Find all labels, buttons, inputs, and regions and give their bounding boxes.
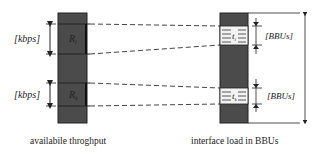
left-throughput-bar: Ri Rk	[58, 13, 90, 123]
unit-label-bbus-1: [BBUs]	[265, 31, 293, 41]
left-dimension-arrows: [kbps] [kbps]	[14, 24, 56, 106]
dashed-connectors	[90, 24, 220, 106]
throughput-to-load-diagram: Ri Rk [kbps] [kbps]	[0, 0, 323, 152]
unit-label-kbps-2: [kbps]	[14, 89, 40, 100]
right-caption: interface load in BBUs	[191, 136, 279, 146]
right-dimension-arrows	[248, 13, 305, 123]
unit-label-bbus-2: [BBUs]	[267, 91, 295, 101]
unit-label-kbps-1: [kbps]	[14, 33, 40, 44]
left-caption: availabile throghput	[30, 136, 107, 146]
right-load-bar: ti tk	[220, 13, 248, 123]
